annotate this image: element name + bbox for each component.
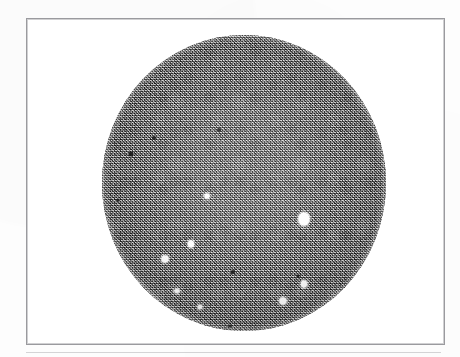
scan-sheet (0, 0, 460, 357)
circular-field-of-view (102, 35, 386, 331)
particle-bright-3 (162, 256, 169, 263)
particle-dark-7 (117, 199, 120, 202)
particle-bright-7 (175, 289, 180, 293)
scan-rule-line (26, 352, 441, 353)
particle-bright-4 (301, 281, 307, 288)
particle-dark-5 (228, 325, 232, 328)
particle-dark-2 (152, 136, 156, 140)
particle-bright-1 (299, 213, 310, 226)
particle-bright-8 (198, 305, 202, 309)
particle-dark-6 (297, 275, 300, 278)
emulsion-grain-layer-base (102, 35, 386, 331)
particle-bright-5 (280, 298, 287, 305)
figure-frame (26, 18, 445, 345)
emulsion-clump-layer (102, 35, 386, 331)
field-vignette (102, 35, 386, 331)
emulsion-grain-layer-pixel (102, 35, 386, 331)
particle-dark-4 (231, 270, 235, 274)
emulsion-grain-layer-fine (102, 35, 386, 331)
particle-dark-1 (129, 152, 134, 157)
field-aperture-rim (102, 35, 386, 331)
emulsion-grain-layer-coarse (102, 35, 386, 331)
particle-dark-3 (217, 128, 221, 132)
particle-bright-2 (188, 241, 194, 248)
particle-bright-6 (205, 194, 210, 199)
